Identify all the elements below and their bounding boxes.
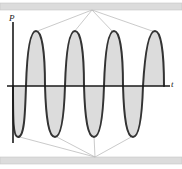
bottom-connector-line xyxy=(94,136,95,157)
bottom-connector-line xyxy=(16,136,95,157)
figure-canvas xyxy=(0,0,182,169)
top-plate xyxy=(0,3,182,10)
top-connector-lines xyxy=(35,10,155,32)
bottom-connector-lines xyxy=(16,136,133,157)
pressure-wave-figure: P t xyxy=(0,0,182,169)
y-axis-label: P xyxy=(9,14,15,23)
top-connector-line xyxy=(92,10,155,32)
wave-fill xyxy=(13,31,164,137)
wave-lobe-negative xyxy=(123,86,143,137)
x-axis-label: t xyxy=(171,80,174,89)
wave-lobe-negative xyxy=(45,86,65,137)
wave-lobe-negative xyxy=(84,86,104,137)
bottom-connector-line xyxy=(95,136,133,157)
bottom-plate xyxy=(0,157,182,164)
bottom-connector-line xyxy=(55,136,95,157)
